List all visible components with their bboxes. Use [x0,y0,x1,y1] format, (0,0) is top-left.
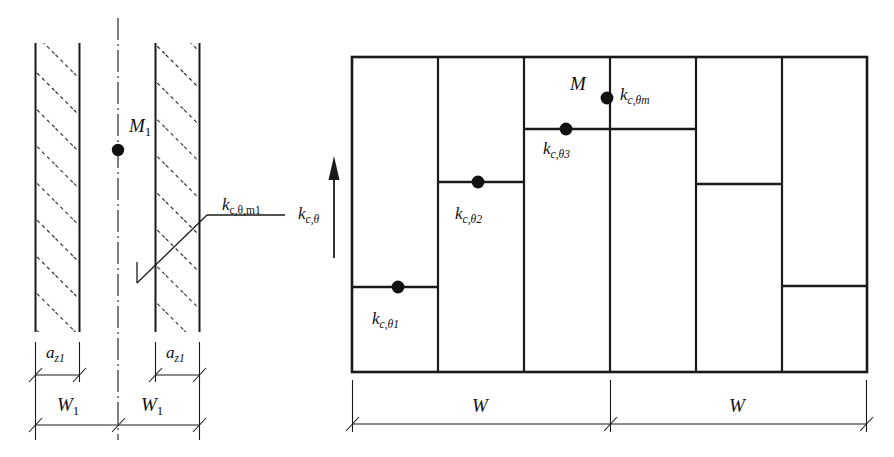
m1-marker-dot [112,144,124,156]
left-diagram-group [29,18,285,440]
dot-kctm [601,92,614,105]
m1-label: M1 [129,116,151,135]
m-label: M [570,74,586,93]
kc-theta-m1-label: kc,θ,m1 [222,196,261,213]
hatched-bar-left [35,43,80,332]
axis-arrowhead [329,156,340,180]
kc-theta-axis-label: kc,θ [298,205,319,222]
figure-canvas: M1 kc,θ,m1 az1 az1 W1 W1 kc,θ kc,θ1 kc,θ… [0,0,894,457]
az1-label-right: az1 [166,344,185,361]
kc-theta-1-label: kc,θ1 [372,310,399,327]
dot-kct3 [560,123,573,136]
dot-kct2 [472,176,485,189]
w1-label-left: W1 [57,395,79,414]
column-dividers [438,57,782,372]
kc-theta-m-label: kc,θm [620,86,650,103]
w-label-right: W [729,396,745,415]
kc-theta-3-label: kc,θ3 [543,140,570,157]
kc-theta-2-label: kc,θ2 [455,205,482,222]
diagram-svg [0,0,894,457]
dot-kct1 [392,281,405,294]
w-label-left: W [472,396,488,415]
az1-label-left: az1 [46,344,65,361]
right-diagram-group [329,57,874,432]
w1-label-right: W1 [141,395,163,414]
hatched-bar-right [155,43,200,332]
marker-dots [392,92,614,294]
